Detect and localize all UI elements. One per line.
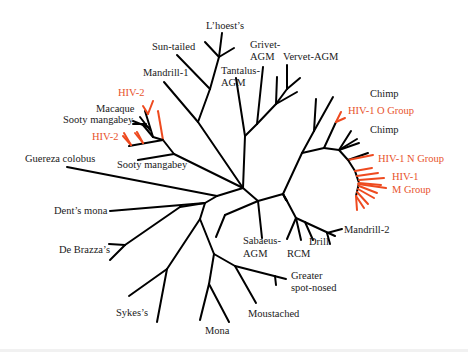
label-hiv1-o-group: HIV-1 O Group [348, 105, 414, 116]
clade-agm [236, 65, 300, 188]
label-hiv1-m-group-line1: HIV-1 [392, 171, 418, 182]
label-hiv2-bottom: HIV-2 [92, 131, 118, 142]
label-vervet-agm: Vervet-AGM [283, 51, 339, 62]
label-sooty-mangabey-2: Sooty mangabey [117, 159, 188, 170]
label-hiv1-n-group: HIV-1 N Group [378, 153, 444, 164]
clade-sooty-hiv2 [123, 101, 243, 188]
label-sooty-mangabey-1: Sooty mangabey [63, 114, 134, 125]
label-de-brazzas: De Brazza’s [59, 244, 110, 255]
label-rcm: RCM [287, 248, 311, 259]
label-lhoests: L’hoest’s [206, 20, 244, 31]
label-moustached: Moustached [248, 308, 300, 319]
label-mona: Mona [205, 325, 230, 336]
label-chimp-2: Chimp [370, 124, 399, 135]
label-macaque: Macaque [96, 103, 135, 114]
tree-backbone [198, 122, 283, 237]
branch-guereza-colobus [67, 167, 243, 196]
label-guereza-colobus: Guereza colobus [25, 153, 95, 164]
label-greater-spot-nosed-line2: spot-nosed [291, 282, 337, 293]
label-hiv2-top: HIV-2 [118, 87, 144, 98]
label-grivet-agm-line1: Grivet- [250, 39, 281, 50]
label-sabaeus-agm-line2: AGM [243, 248, 268, 259]
label-mandrill-1: Mandrill-1 [143, 67, 189, 78]
label-tantalus-agm-line2: AGM [221, 77, 246, 88]
label-hiv1-m-group-line2: M Group [392, 184, 431, 195]
label-grivet-agm-line2: AGM [250, 51, 275, 62]
label-dents-mona: Dent’s mona [54, 205, 108, 216]
label-sun-tailed: Sun-tailed [152, 41, 196, 52]
label-sykes: Sykes’s [116, 307, 148, 318]
label-mandrill-2: Mandrill-2 [344, 224, 390, 235]
label-tantalus-agm-line1: Tantalus- [221, 65, 260, 76]
label-greater-spot-nosed-line1: Greater [291, 270, 323, 281]
phylogenetic-tree: L’hoest’s Sun-tailed Grivet- AGM Vervet-… [0, 0, 468, 352]
label-chimp-1: Chimp [370, 88, 399, 99]
label-drill: Drill [309, 236, 329, 247]
label-sabaeus-agm-line1: Sabaeus- [243, 235, 281, 246]
